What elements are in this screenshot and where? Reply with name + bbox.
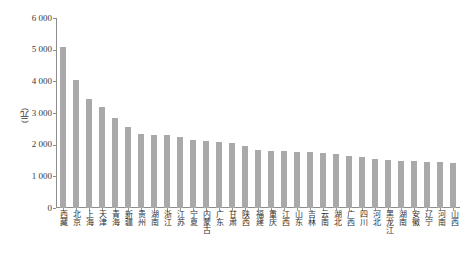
bar — [112, 118, 118, 208]
x-axis-tick-label: 内蒙古 — [202, 210, 210, 235]
bar — [177, 137, 183, 208]
bar — [138, 134, 144, 208]
bar — [398, 161, 404, 209]
x-axis-tick-label: 江苏 — [176, 210, 184, 226]
x-axis-tick-label: 宁夏 — [189, 210, 197, 226]
bar-series — [56, 18, 460, 208]
bar — [294, 152, 300, 208]
bar — [99, 107, 105, 208]
x-axis-tick-label: 山东 — [293, 210, 301, 226]
bar — [307, 152, 313, 208]
bar — [346, 156, 352, 208]
y-axis-tick-label: 5 000 — [14, 45, 52, 54]
bar — [164, 135, 170, 208]
plot-area — [56, 18, 460, 208]
bar — [125, 127, 131, 208]
y-axis-tick-label: 3 000 — [14, 109, 52, 118]
bar — [203, 141, 209, 208]
y-axis-tick-label: 1 000 — [14, 172, 52, 181]
y-axis-tick-label: 6 000 — [14, 14, 52, 23]
x-axis-tick-label: 北京 — [72, 210, 80, 226]
bar-chart: (元) 6 0005 0004 0003 0002 0001 0000 西藏北京… — [0, 0, 466, 260]
bar — [424, 162, 430, 208]
y-axis-tick — [53, 145, 56, 146]
y-axis-tick — [53, 113, 56, 114]
bar — [268, 151, 274, 208]
bar — [372, 159, 378, 208]
y-axis-tick-label: 0 — [14, 204, 52, 213]
bar — [73, 80, 79, 208]
bar — [385, 160, 391, 208]
x-axis-tick-label: 重庆 — [267, 210, 275, 226]
x-axis-tick-label: 河北 — [371, 210, 379, 226]
x-axis-tick-label: 安徽 — [410, 210, 418, 226]
y-axis-tick — [53, 50, 56, 51]
x-axis-tick-label: 黑龙江 — [384, 210, 392, 235]
y-axis-tick — [53, 81, 56, 82]
bar — [242, 146, 248, 208]
bar — [190, 140, 196, 208]
y-axis-tick — [53, 18, 56, 19]
x-axis-tick-label: 云南 — [319, 210, 327, 226]
bar — [216, 142, 222, 209]
x-axis-tick-label: 湖南 — [150, 210, 158, 226]
x-axis-tick-label: 四川 — [358, 210, 366, 226]
bar — [450, 163, 456, 208]
bar — [151, 135, 157, 208]
y-axis-tick — [53, 208, 56, 209]
bar — [281, 151, 287, 208]
bar — [437, 162, 443, 208]
x-axis-tick-label: 福建 — [254, 210, 262, 226]
x-axis-tick-label: 广东 — [215, 210, 223, 226]
bar — [359, 157, 365, 208]
x-axis-tick-label: 浙江 — [163, 210, 171, 226]
x-axis-tick-label: 江西 — [280, 210, 288, 226]
y-axis-tick — [53, 176, 56, 177]
x-axis-tick-label: 陕西 — [241, 210, 249, 226]
y-axis-tick-label: 4 000 — [14, 77, 52, 86]
x-axis-tick-label: 西藏 — [59, 210, 67, 226]
x-axis-tick-label: 河南 — [436, 210, 444, 226]
x-axis-tick-label: 湖北 — [332, 210, 340, 226]
bar — [229, 143, 235, 208]
x-axis-tick-label: 天津 — [98, 210, 106, 226]
x-axis-tick-label: 上海 — [85, 210, 93, 226]
bar — [333, 154, 339, 208]
x-axis-tick-label: 广西 — [345, 210, 353, 226]
x-axis-tick-label: 辽宁 — [423, 210, 431, 226]
x-axis-tick-label: 甘肃 — [228, 210, 236, 226]
x-axis-tick-label: 山西 — [449, 210, 457, 226]
bar — [255, 150, 261, 208]
y-axis-tick-label: 2 000 — [14, 140, 52, 149]
x-axis-tick-labels: 西藏北京上海天津青海新疆贵州湖南浙江江苏宁夏内蒙古广东甘肃陕西福建重庆江西山东吉… — [56, 210, 460, 260]
x-axis-tick-label: 贵州 — [137, 210, 145, 226]
bar — [86, 99, 92, 208]
y-axis-tick-labels: 6 0005 0004 0003 0002 0001 0000 — [14, 0, 52, 260]
x-axis-tick-label: 青海 — [111, 210, 119, 226]
x-axis-tick-label: 新疆 — [124, 210, 132, 226]
bar — [60, 47, 66, 209]
x-axis-tick-label: 吉林 — [306, 210, 314, 226]
bar — [320, 153, 326, 208]
bar — [411, 161, 417, 208]
x-axis-tick-label: 湖南 — [397, 210, 405, 226]
